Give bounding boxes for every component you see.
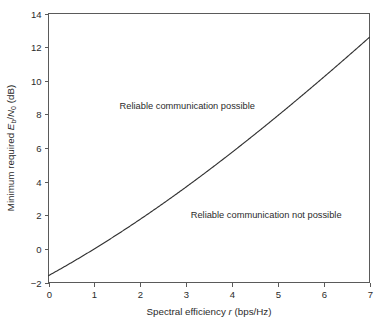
x-axis-ticks (50, 283, 371, 287)
y-tick-label: 4 (36, 177, 41, 188)
x-tick-label: 7 (368, 289, 373, 300)
y-tick-label: 2 (36, 210, 41, 221)
reliable-region-label: Reliable communication possible (120, 101, 255, 111)
x-tick-label: 3 (184, 289, 189, 300)
y-axis-tick-labels: −202468101214 (31, 9, 42, 289)
shannon-limit-plot: 01234567 −202468101214 Spectral efficien… (0, 0, 384, 327)
y-tick-label: 14 (31, 9, 42, 20)
x-tick-label: 5 (276, 289, 281, 300)
x-tick-label: 2 (138, 289, 143, 300)
shannon-bound-curve (49, 37, 370, 275)
x-axis-tick-labels: 01234567 (47, 289, 373, 300)
not-reliable-region-label: Reliable communication not possible (191, 210, 342, 220)
x-tick-label: 1 (92, 289, 97, 300)
y-tick-label: 6 (36, 143, 41, 154)
x-tick-label: 6 (322, 289, 327, 300)
x-axis-title: Spectral efficiency r (bps/Hz) (146, 306, 271, 317)
x-tick-label: 0 (47, 289, 52, 300)
chart-figure: 01234567 −202468101214 Spectral efficien… (0, 0, 384, 327)
y-axis-title: Minimum required Eb/N0 (dB) (5, 85, 17, 212)
y-tick-label: 0 (36, 244, 41, 255)
plot-area-border (49, 14, 370, 283)
y-tick-label: 8 (36, 109, 41, 120)
y-tick-label: 10 (31, 76, 42, 87)
y-tick-label: 12 (31, 42, 42, 53)
y-axis-ticks (45, 15, 49, 284)
x-tick-label: 4 (230, 289, 235, 300)
y-tick-label: −2 (31, 278, 42, 289)
